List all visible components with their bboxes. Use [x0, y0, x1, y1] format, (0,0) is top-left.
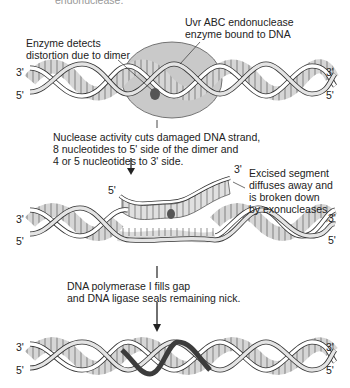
strand-end: 5' [328, 234, 336, 246]
label-line: distortion due to dimer [26, 49, 130, 61]
strand-end: 5' [16, 89, 24, 101]
strand-end: 5' [326, 89, 334, 101]
helix-repaired [30, 342, 335, 374]
label-line: by exonucleases [249, 203, 333, 215]
label-line: Uvr ABC endonuclease [185, 16, 294, 28]
strand-end: 5' [108, 184, 116, 196]
label-line: and DNA ligase seals remaining nick. [67, 292, 240, 304]
uvr-enzyme-label: Uvr ABC endonuclease enzyme bound to DNA [185, 16, 294, 40]
strand-end: 3' [16, 213, 24, 225]
strand-end: 5' [326, 364, 334, 376]
label-line: is broken down [249, 191, 333, 203]
strand-end: 3' [16, 341, 24, 353]
label-line: Nuclease activity cuts damaged DNA stran… [53, 131, 260, 143]
label-line: Enzyme detects [26, 37, 130, 49]
strand-end: 5' [16, 235, 24, 247]
excised-segment-label: Excised segment diffuses away and is bro… [249, 167, 333, 215]
label-line: diffuses away and [249, 179, 333, 191]
label-line: DNA polymerase I fills gap [67, 280, 240, 292]
strand-end: 3' [234, 163, 242, 175]
nuclease-activity-label: Nuclease activity cuts damaged DNA stran… [53, 131, 260, 167]
strand-end: 3' [326, 341, 334, 353]
strand-end: 3' [326, 66, 334, 78]
label-line: 4 or 5 nucleotides to 3' side. [53, 155, 260, 167]
strand-end: 3' [328, 212, 336, 224]
label-line: 8 nucleotides to 5' side of the dimer an… [53, 143, 260, 155]
arrow-down-icon [153, 302, 161, 332]
label-line: enzyme bound to DNA [185, 28, 294, 40]
detects-label: Enzyme detects distortion due to dimer [26, 37, 130, 61]
polymerase-label: DNA polymerase I fills gap and DNA ligas… [67, 280, 240, 304]
strand-end: 5' [16, 364, 24, 376]
strand-end: 3' [16, 66, 24, 78]
label-line: Excised segment [249, 167, 333, 179]
